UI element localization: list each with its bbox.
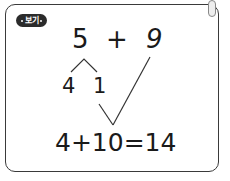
- result-equation: 4+10=14: [55, 130, 176, 155]
